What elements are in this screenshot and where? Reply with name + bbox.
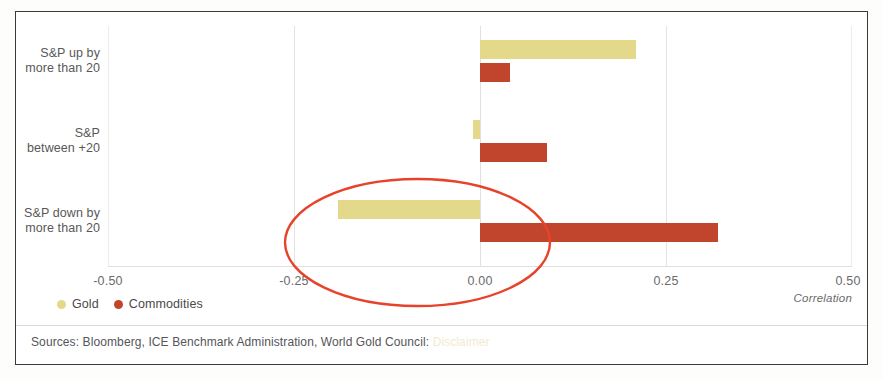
bar-gold-sp-down-more-than-20[interactable] [338,200,480,219]
bar-commodities-sp-between-20[interactable] [480,143,547,162]
gridline-0.50 [851,26,852,266]
footer-divider [16,325,867,326]
gridline--0.50 [108,26,109,266]
plot-area [108,26,852,266]
category-label-0-line-1: more than 20 [0,61,100,76]
legend-label-commodities: Commodities [129,297,203,311]
chart-figure: S&P up by more than 20 S&P between +20 S… [0,0,883,379]
category-label-0-line-0: S&P up by [0,46,100,61]
xtick-label-0: -0.50 [93,274,123,288]
legend-swatch-gold-icon [57,300,66,309]
chart-legend: Gold Commodities [57,297,203,311]
x-axis-title: Correlation [794,292,852,304]
sources-note: Sources: Bloomberg, ICE Benchmark Admini… [31,335,490,349]
sources-text: Sources: Bloomberg, ICE Benchmark Admini… [31,335,429,349]
xtick-label-1: -0.25 [279,274,309,288]
bar-commodities-sp-down-more-than-20[interactable] [480,223,718,242]
category-axis-labels: S&P up by more than 20 S&P between +20 S… [0,26,100,266]
category-label-0: S&P up by more than 20 [0,46,100,76]
category-label-2: S&P down by more than 20 [0,206,100,236]
xtick-label-4: 0.50 [835,274,860,288]
category-label-2-line-0: S&P down by [0,206,100,221]
xtick-label-2: 0.00 [467,274,492,288]
legend-item-commodities[interactable]: Commodities [114,297,203,311]
legend-label-gold: Gold [72,297,99,311]
category-label-1-line-1: between +20 [0,141,100,156]
bar-gold-sp-up-more-than-20[interactable] [480,40,636,59]
legend-swatch-commodities-icon [114,300,123,309]
x-axis-baseline [108,266,852,267]
category-label-2-line-1: more than 20 [0,221,100,236]
disclaimer-link[interactable]: Disclaimer [433,335,490,349]
category-label-1-line-0: S&P [0,126,100,141]
legend-item-gold[interactable]: Gold [57,297,99,311]
gridline--0.25 [294,26,295,266]
bar-gold-sp-between-20[interactable] [473,120,480,139]
xtick-label-3: 0.25 [653,274,678,288]
category-label-1: S&P between +20 [0,126,100,156]
bar-commodities-sp-up-more-than-20[interactable] [480,63,510,82]
